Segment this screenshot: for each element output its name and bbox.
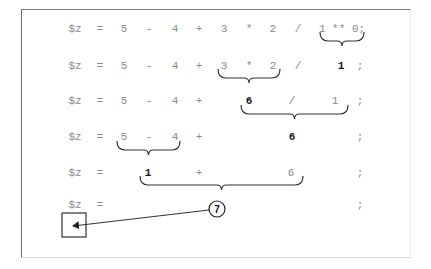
evaluation-annotations: 7 [0,0,431,269]
result-value: 7 [214,204,220,215]
reduction-brace [320,32,364,46]
assignment-arrow [73,210,209,226]
reduction-brace [218,69,280,83]
reduction-braces [117,32,364,190]
reduction-brace [140,176,303,190]
reduction-brace [241,105,348,119]
reduction-brace [117,141,180,155]
